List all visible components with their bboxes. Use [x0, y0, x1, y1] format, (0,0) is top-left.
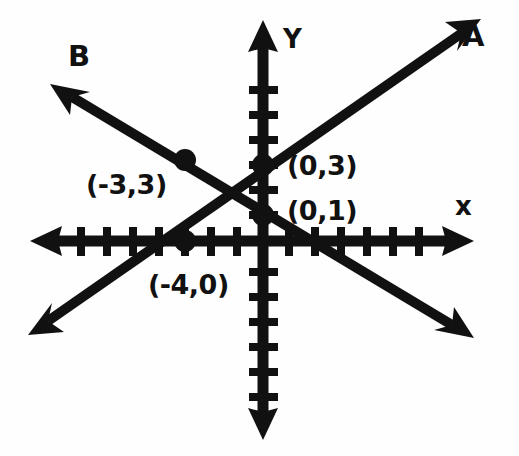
y-axis-top-arrow-icon — [248, 20, 278, 52]
x-axis-label: x — [455, 193, 472, 219]
point-marker-0-3 — [252, 154, 274, 176]
graph-figure: (0,3) (0,1) (-3,3) (-4,0) A B x Y — [0, 0, 519, 456]
y-axis — [248, 20, 278, 440]
x-axis-right-arrow-icon — [442, 226, 474, 256]
point-label-neg3-3: (-3,3) — [86, 171, 167, 198]
point-marker-0-1 — [252, 204, 274, 226]
point-label-0-3: (0,3) — [287, 152, 357, 179]
x-axis — [30, 226, 474, 256]
line-label-b: B — [68, 42, 90, 71]
y-axis-bottom-arrow-icon — [248, 408, 278, 440]
point-marker-neg3-3 — [174, 149, 196, 171]
point-label-0-1: (0,1) — [287, 197, 357, 224]
point-marker-neg4-0 — [174, 230, 196, 252]
x-axis-left-arrow-icon — [30, 226, 62, 256]
y-axis-label: Y — [283, 26, 302, 52]
point-label-neg4-0: (-4,0) — [148, 271, 229, 298]
line-label-a: A — [462, 22, 484, 51]
